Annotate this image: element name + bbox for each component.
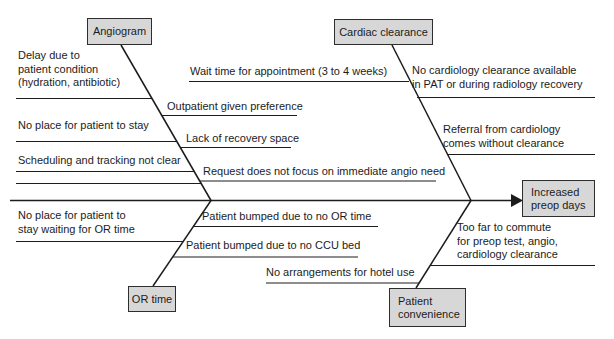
cause-label-bumped-no-ccu-bed: Patient bumped due to no CCU bed — [186, 239, 360, 253]
effect-box: Increased preop days — [522, 180, 595, 217]
cause-label-no-place-waiting-or: No place for patient to stay waiting for… — [18, 209, 135, 236]
cause-label-scheduling-tracking: Scheduling and tracking not clear — [18, 154, 181, 168]
cause-label-no-hotel-arrangements: No arrangements for hotel use — [266, 266, 415, 280]
cause-label-referral-cardiology: Referral from cardiology comes without c… — [443, 123, 564, 150]
fishbone-diagram: Angiogram Cardiac clearance OR time Pati… — [0, 0, 614, 339]
cause-label-lack-recovery-space: Lack of recovery space — [186, 132, 299, 146]
cause-label-too-far-commute: Too far to commute for preop test, angio… — [457, 221, 558, 262]
cause-label-request-angio-need: Request does not focus on immediate angi… — [203, 165, 445, 179]
category-box-cardiac-clearance: Cardiac clearance — [334, 19, 433, 45]
category-box-angiogram: Angiogram — [87, 18, 152, 45]
cause-label-bumped-no-or-time: Patient bumped due to no OR time — [202, 210, 371, 224]
cause-label-outpatient-preference: Outpatient given preference — [167, 100, 303, 114]
cause-label-no-place-to-stay: No place for patient to stay — [18, 119, 149, 133]
category-box-or-time: OR time — [128, 286, 176, 312]
cause-label-delay-patient-condition: Delay due to patient condition (hydratio… — [18, 49, 120, 90]
cause-label-wait-time: Wait time for appointment (3 to 4 weeks) — [190, 65, 387, 79]
category-box-patient-convenience: Patient convenience — [389, 288, 466, 327]
cause-label-no-cardiology-clearance: No cardiology clearance available in PAT… — [412, 64, 583, 91]
